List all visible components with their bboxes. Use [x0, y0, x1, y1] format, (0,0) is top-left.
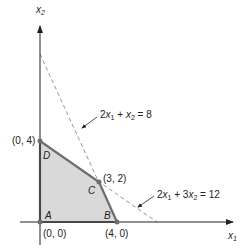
vertex-d-dot [38, 139, 43, 144]
vertex-c-coord: (3, 2) [103, 173, 126, 184]
constraint-label-2: 2x1 + 3x2 = 12 [157, 189, 220, 201]
vertex-c-label: C [88, 185, 95, 196]
vertex-a-coord: (0, 0) [43, 228, 66, 239]
feasible-region-diagram [0, 0, 246, 251]
x2-axis-label: x2 [36, 4, 45, 16]
vertex-b-coord: (4, 0) [105, 228, 128, 239]
vertex-a-label: A [45, 210, 52, 221]
x1-axis-label: x1 [228, 230, 237, 242]
constraint-label-1: 2x1 + x2 = 8 [100, 109, 152, 121]
leader-arrow-constraint-1 [82, 117, 97, 128]
vertex-c-dot [97, 180, 102, 185]
vertex-b-dot [115, 220, 120, 225]
vertex-d-coord: (0, 4) [12, 135, 35, 146]
leader-arrow-constraint-2 [138, 196, 154, 207]
vertex-a-dot [38, 220, 43, 225]
vertex-b-label: B [104, 210, 111, 221]
vertex-d-label: D [43, 150, 50, 161]
